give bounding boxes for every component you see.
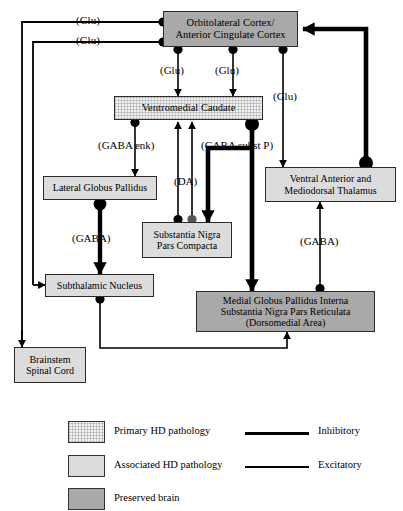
node-orbitolateral-cortex-text: Orbitolateral Cortex/Anterior Cingulate … [164,17,297,41]
brainstem-text: BrainstemSpinal Cord [15,354,85,376]
brainstem-line-1: Brainstem [29,354,70,365]
node-subthalamic-nucleus[interactable]: Subthalamic Nucleus [45,274,154,297]
node-medial-globus-pallidus[interactable]: Medial Globus Pallidus InternaSubstantia… [196,291,375,332]
edge-label-gaba-enk: (GABA enk) [98,139,155,151]
edge-label-glu-caudate-right: (Glu) [215,64,239,76]
diagram-root: Orbitolateral Cortex/Anterior Cingulate … [0,0,403,511]
mgp-text: Medial Globus Pallidus InternaSubstantia… [197,295,374,329]
node-thalamus[interactable]: Ventral Anterior andMediodorsal Thalamus [265,167,396,202]
thalamus-text: Ventral Anterior andMediodorsal Thalamus [266,173,395,195]
legend: Primary HD pathology Associated HD patho… [0,408,403,511]
node-ventromedial-caudate[interactable]: Ventromedial Caudate [114,96,263,120]
legend-swatch-preserved [68,488,105,510]
mgp-line-1: Medial Globus Pallidus Interna [223,295,348,306]
edge-label-glu-caudate-left: (Glu) [160,64,184,76]
legend-label-inhibitory: Inhibitory [318,425,360,436]
edge-label-gaba-subst-p: (GABA subst P) [201,139,273,151]
cortex-line-1: Orbitolateral Cortex/ [187,17,275,28]
legend-swatch-primary [68,421,105,443]
edge-label-glu-second-left: (Glu) [76,34,100,46]
mgp-line-3: (Dorsomedial Area) [246,317,326,328]
edge-thalamus-to-cortex [303,29,366,167]
caudate-label: Ventromedial Caudate [115,102,262,114]
legend-line-inhibitory [245,432,309,435]
stn-label: Subthalamic Nucleus [46,280,153,291]
mgp-line-2: Substantia Nigra Pars Reticulata [221,306,351,317]
node-orbitolateral-cortex[interactable]: Orbitolateral Cortex/Anterior Cingulate … [163,11,298,47]
legend-label-primary: Primary HD pathology [114,425,210,436]
snpc-line-2: Pars Compacta [157,240,217,251]
legend-line-excitatory [245,466,309,468]
node-lateral-globus-pallidus[interactable]: Lateral Globus Pallidus [43,176,157,200]
legend-swatch-associated [68,455,105,477]
thalamus-line-1: Ventral Anterior and [290,173,372,184]
thalamus-line-2: Mediodorsal Thalamus [284,185,376,196]
edge-caudate-to-snpc [208,148,252,222]
legend-label-preserved: Preserved brain [114,492,180,503]
snpc-line-1: Substantia Nigra [154,229,221,240]
edge-label-glu-thalamus: (Glu) [273,90,297,102]
lgp-label: Lateral Globus Pallidus [44,182,156,193]
node-brainstem-spinal-cord[interactable]: BrainstemSpinal Cord [14,347,86,383]
legend-label-associated: Associated HD pathology [114,459,222,470]
edge-label-gaba-lgp: (GABA) [72,232,111,244]
edge-label-gaba-mgp-thalamus: (GABA) [300,235,339,247]
cortex-line-2: Anterior Cingulate Cortex [175,29,285,40]
brainstem-line-2: Spinal Cord [26,365,74,376]
edge-label-da: (DA) [174,175,197,187]
node-substantia-nigra-pars-compacta[interactable]: Substantia NigraPars Compacta [142,222,232,258]
legend-label-excitatory: Excitatory [318,459,362,470]
snpc-text: Substantia NigraPars Compacta [143,229,231,251]
edge-label-glu-top-left: (Glu) [76,14,100,26]
